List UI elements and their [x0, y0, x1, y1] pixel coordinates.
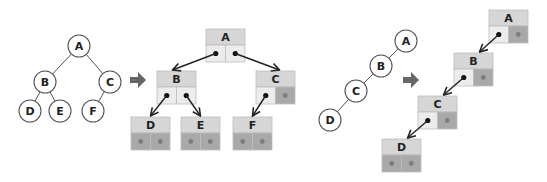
complete-tree-node-f: F	[82, 100, 104, 122]
skewed-linked-node-d: D	[382, 139, 421, 172]
binary-tree-diagram: ABCDEF ABCDEF ABCD ABCD	[0, 0, 547, 182]
node-label: B	[377, 60, 385, 73]
tree-edge	[50, 92, 55, 101]
skewed-tree-node-b: B	[370, 55, 392, 77]
tree-edge	[337, 99, 348, 112]
complete-linked-node-a: A	[206, 29, 245, 62]
complete-linked-node-c: C	[256, 71, 295, 104]
node-label: A	[75, 40, 84, 53]
convert-arrow-complete-icon	[130, 72, 146, 88]
null-dot-icon	[158, 139, 163, 144]
node-label: A	[221, 31, 230, 44]
skewed-tree-node-d: D	[319, 109, 341, 131]
convert-arrow-skewed-icon	[403, 72, 419, 88]
node-label: C	[352, 85, 360, 98]
complete-tree-node-a: A	[68, 35, 90, 57]
node-label: F	[249, 119, 257, 132]
complete-linked-node-b: B	[157, 71, 196, 104]
node-label: C	[106, 76, 114, 89]
complete-tree-node-d: D	[19, 100, 41, 122]
node-label: C	[271, 73, 279, 86]
node-label: B	[469, 55, 477, 68]
null-dot-icon	[389, 161, 394, 166]
tree-edge	[53, 54, 72, 74]
null-dot-icon	[240, 139, 245, 144]
null-dot-icon	[188, 139, 193, 144]
skewed-binary-tree: ABCD	[319, 30, 417, 131]
tree-edge	[35, 92, 40, 101]
null-dot-icon	[409, 161, 414, 166]
complete-tree-node-e: E	[49, 100, 71, 122]
node-label: E	[197, 119, 205, 132]
null-dot-icon	[516, 32, 521, 37]
complete-linked-node-d: D	[131, 117, 170, 150]
complete-tree-node-b: B	[34, 71, 56, 93]
node-label: A	[402, 35, 411, 48]
complete-linked-node-f: F	[233, 117, 272, 150]
complete-tree-node-c: C	[99, 71, 121, 93]
node-label: D	[25, 105, 34, 118]
node-label: D	[397, 141, 406, 154]
node-label: D	[325, 114, 334, 127]
complete-linked-node-e: E	[181, 117, 220, 150]
null-dot-icon	[138, 139, 143, 144]
null-dot-icon	[283, 93, 288, 98]
node-label: A	[504, 12, 513, 25]
tree-edge	[86, 54, 103, 73]
null-dot-icon	[260, 139, 265, 144]
complete-binary-tree: ABCDEF	[19, 35, 121, 122]
node-label: B	[172, 73, 180, 86]
node-label: D	[146, 119, 155, 132]
complete-linked-representation: ABCDEF	[131, 29, 295, 150]
null-dot-icon	[481, 75, 486, 80]
skewed-tree-node-c: C	[345, 80, 367, 102]
node-label: C	[433, 98, 441, 111]
null-dot-icon	[208, 139, 213, 144]
node-label: B	[41, 76, 49, 89]
tree-edge	[364, 74, 373, 83]
skewed-tree-node-a: A	[395, 30, 417, 52]
null-dot-icon	[445, 118, 450, 123]
node-label: E	[56, 105, 64, 118]
tree-edge	[99, 91, 105, 101]
node-label: F	[89, 105, 97, 118]
tree-edge	[389, 49, 398, 58]
